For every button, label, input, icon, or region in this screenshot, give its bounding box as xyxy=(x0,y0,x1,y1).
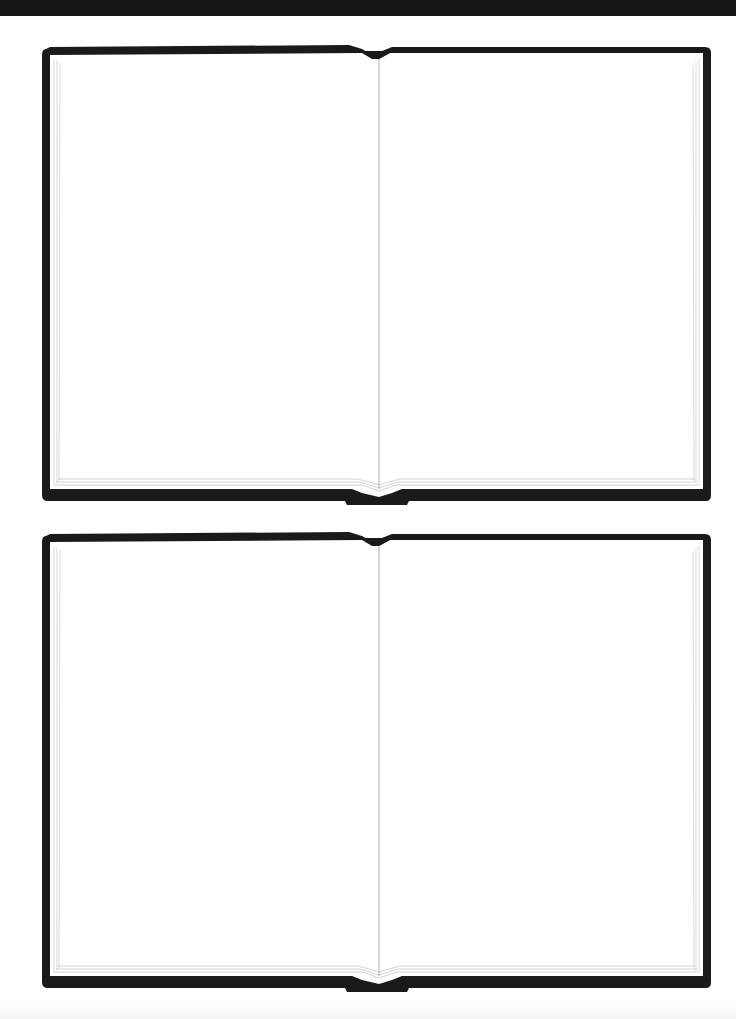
open-book-2 xyxy=(42,532,712,988)
bottom-scan-edge xyxy=(0,1004,736,1019)
book-2-right-page[interactable] xyxy=(380,540,704,976)
book-1-left-page[interactable] xyxy=(52,53,378,489)
open-book-1 xyxy=(42,45,712,501)
top-dark-band xyxy=(0,0,736,16)
book-2-left-page[interactable] xyxy=(52,540,378,976)
book-1-right-page[interactable] xyxy=(380,53,704,489)
